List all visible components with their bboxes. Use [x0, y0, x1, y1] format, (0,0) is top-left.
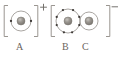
- atom-b-electron-dot: [63, 31, 65, 33]
- atom-b-nucleus: [64, 17, 72, 25]
- atom-b-electron-dot: [71, 31, 73, 33]
- lewis-structure-figure: A B C: [0, 0, 119, 57]
- atom-c: [80, 12, 98, 30]
- atom-b-electron-dot: [56, 16, 58, 18]
- atom-a-nucleus: [17, 17, 25, 25]
- atom-label-a: A: [16, 42, 23, 52]
- atom-label-c: C: [82, 42, 89, 52]
- atom-b-electron-dot: [78, 24, 80, 26]
- atom-a-electron-dot: [30, 20, 32, 22]
- atom-b-electron-dot: [72, 9, 74, 11]
- atom-b-electron-dot: [78, 16, 80, 18]
- atom-b-electron-dot: [62, 9, 64, 11]
- atom-label-b: B: [62, 42, 69, 52]
- atom-c-nucleus: [85, 17, 93, 25]
- atom-a-electron-dot: [10, 20, 12, 22]
- atom-b-electron-dot: [56, 24, 58, 26]
